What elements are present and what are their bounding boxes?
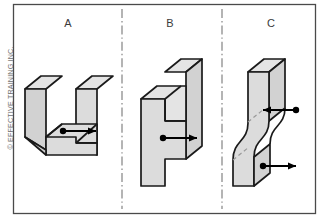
panel-label-a: A bbox=[64, 17, 72, 29]
panel-label-b: B bbox=[166, 17, 173, 29]
shape-b-upper-right-face bbox=[186, 59, 202, 159]
diagram-canvas: A B C bbox=[0, 0, 324, 223]
shape-c-point-dot-upper bbox=[293, 107, 299, 113]
figure-root: © EFFECTIVE TRAINING INC. A B C bbox=[0, 0, 324, 223]
shape-a-point-dot bbox=[60, 128, 66, 134]
panel-label-c: C bbox=[267, 17, 275, 29]
shape-b-point-dot bbox=[160, 135, 166, 141]
shape-c-point-dot-lower bbox=[260, 163, 266, 169]
